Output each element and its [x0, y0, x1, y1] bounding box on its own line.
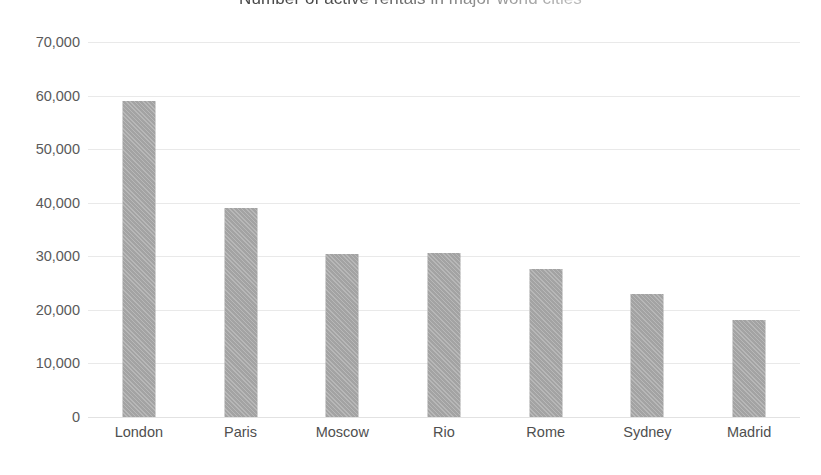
bar-chart: Number of active rentals in major world … — [0, 0, 821, 475]
bar[interactable] — [224, 208, 257, 417]
y-axis-tick-label: 60,000 — [4, 88, 80, 104]
y-axis-tick-label: 0 — [4, 409, 80, 425]
x-axis-tick-label: Paris — [224, 424, 257, 440]
x-axis-tick-label: Moscow — [316, 424, 369, 440]
y-axis-tick-label: 50,000 — [4, 141, 80, 157]
bar-series — [88, 42, 800, 417]
chart-title: Number of active rentals in major world … — [0, 0, 821, 9]
bar[interactable] — [326, 254, 359, 417]
y-axis-tick-label: 30,000 — [4, 248, 80, 264]
x-axis-tick-label: Rome — [526, 424, 565, 440]
y-axis-tick-label: 40,000 — [4, 195, 80, 211]
x-axis: LondonParisMoscowRioRomeSydneyMadrid — [88, 424, 800, 452]
bar[interactable] — [529, 269, 562, 417]
bar[interactable] — [427, 253, 460, 417]
x-axis-tick-label: Rio — [433, 424, 455, 440]
x-axis-tick-label: London — [115, 424, 163, 440]
x-axis-tick-label: Madrid — [727, 424, 771, 440]
x-axis-tick-label: Sydney — [623, 424, 671, 440]
y-axis-tick-label: 10,000 — [4, 355, 80, 371]
bar-slot — [597, 42, 699, 417]
plot-area — [88, 42, 800, 417]
gridline — [88, 417, 800, 418]
bar-slot — [291, 42, 393, 417]
bar-slot — [393, 42, 495, 417]
bar-slot — [698, 42, 800, 417]
bar-slot — [88, 42, 190, 417]
bar-slot — [190, 42, 292, 417]
bar[interactable] — [631, 294, 664, 417]
bar[interactable] — [733, 320, 766, 417]
y-axis: 010,00020,00030,00040,00050,00060,00070,… — [0, 42, 80, 417]
bar[interactable] — [122, 101, 155, 417]
y-axis-tick-label: 70,000 — [4, 34, 80, 50]
bar-slot — [495, 42, 597, 417]
y-axis-tick-label: 20,000 — [4, 302, 80, 318]
